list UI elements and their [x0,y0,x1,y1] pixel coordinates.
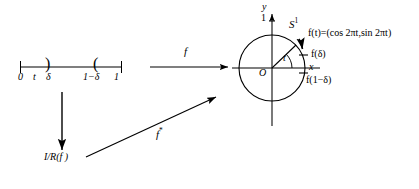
bracket-open-right-paren: ) [45,56,50,72]
arrow-f-star [86,97,216,157]
arrow-label-quotient: I/R(f ) [44,152,68,162]
circle-axes-group [232,14,320,126]
y-axis-unit-label: 1 [261,13,266,23]
bracket-open-left-paren: ( [93,56,98,72]
circle-label-s1: S1 [289,17,298,30]
angle-label-t: t [283,53,286,63]
figure-canvas: 0 t δ 1−δ 1 ) ( f I/R(f ) f* S1 y 1 x O … [0,0,419,189]
f-star-superscript: * [159,126,163,135]
interval-tick-label-0: 0 [18,72,23,82]
arrow-label-f-star: f* [156,127,163,140]
interval-tick-label-1: 1 [114,72,119,82]
interval-tick-label-t: t [33,72,36,82]
point-label-f-of-delta: f(δ) [311,49,326,59]
interval-tick-label-delta: δ [46,72,51,82]
angle-arc-t [286,54,292,68]
x-axis-label: x [309,62,313,72]
y-axis-label: y [262,2,266,12]
origin-label: O [259,68,266,78]
s1-superscript: 1 [295,16,299,25]
arrow-label-f: f [184,46,187,57]
point-label-f-of-one-minus-delta: f(1−δ) [306,75,331,85]
point-label-f-of-t: f(t)=(cos 2πt,sin 2πt) [308,28,391,38]
interval-tick-label-one-minus-delta: 1−δ [83,72,99,82]
arc-direction-arrow [299,39,303,49]
